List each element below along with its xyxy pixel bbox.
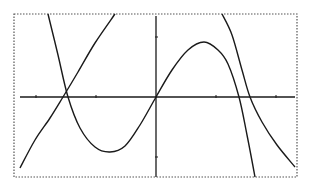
graph-plot (0, 0, 309, 190)
oscillating-curve (20, 14, 115, 168)
oscillating-curve-segment (222, 14, 295, 167)
cubic-curve (48, 14, 255, 177)
